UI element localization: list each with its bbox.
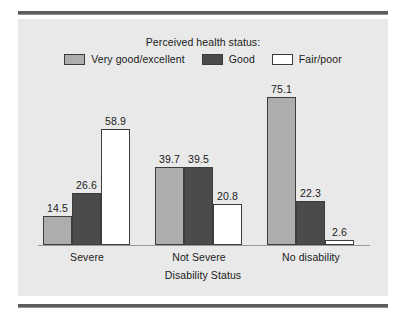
category-axis-line (38, 245, 370, 246)
bar-wrap: 39.5 (184, 70, 213, 245)
bar-no-disability-very-good-excellent[interactable] (267, 97, 296, 245)
bar-not-severe-fair-poor[interactable] (213, 204, 242, 245)
bar-wrap: 14.5 (43, 70, 72, 245)
bar-group-not-severe: 39.7 39.5 20.8 (155, 70, 242, 245)
bar-not-severe-very-good-excellent[interactable] (155, 167, 184, 245)
bar-severe-very-good-excellent[interactable] (43, 216, 72, 245)
bar-wrap: 58.9 (101, 70, 130, 245)
bar-wrap: 75.1 (267, 70, 296, 245)
bar-value-label: 58.9 (93, 115, 138, 127)
category-label-no-disability: No disability (256, 251, 366, 263)
bar-not-severe-good[interactable] (184, 167, 213, 245)
bar-severe-fair-poor[interactable] (101, 129, 130, 245)
bar-no-disability-fair-poor[interactable] (325, 240, 354, 245)
category-label-not-severe: Not Severe (144, 251, 254, 263)
bar-value-label: 2.6 (317, 226, 362, 238)
bar-value-label: 20.8 (205, 190, 250, 202)
plot-area: 14.5 26.6 58.9 39.7 39.5 20.8 (18, 19, 388, 296)
bar-wrap: 2.6 (325, 70, 354, 245)
bar-wrap: 20.8 (213, 70, 242, 245)
bar-wrap: 26.6 (72, 70, 101, 245)
top-divider-rule (18, 11, 388, 15)
bar-group-severe: 14.5 26.6 58.9 (43, 70, 130, 245)
bottom-divider-rule (18, 304, 388, 308)
bar-group-no-disability: 75.1 22.3 2.6 (267, 70, 354, 245)
bar-no-disability-good[interactable] (296, 201, 325, 245)
x-axis-title: Disability Status (18, 269, 388, 281)
bar-severe-good[interactable] (72, 193, 101, 245)
category-label-severe: Severe (32, 251, 142, 263)
chart-panel: Perceived health status: Very good/excel… (18, 19, 388, 296)
bar-wrap: 22.3 (296, 70, 325, 245)
